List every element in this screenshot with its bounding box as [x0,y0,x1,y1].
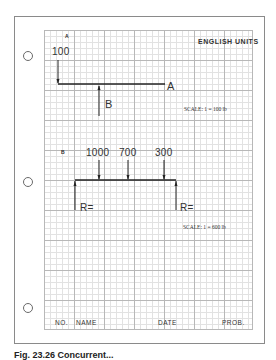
footer-prob-label: PROB. [222,320,245,327]
footer-date-label: DATE [158,320,177,327]
load-label-700: 700 [119,148,137,158]
arrow-head-icon [163,175,166,180]
scale-a-label: SCALE: 1 = 100 lb [184,107,227,113]
arrow-head-icon [98,85,101,90]
beam-end-label: A [167,81,174,92]
right-reaction-label: R= [180,203,194,213]
arrow-head-icon [57,79,60,84]
arrow-head-icon [127,175,130,180]
reaction-label: B [105,99,112,110]
applied-force-label: 100 [52,47,70,57]
load-label-1000: 1000 [86,148,109,158]
left-reaction-label: R= [80,203,94,213]
load-label-300: 300 [155,148,173,158]
units-label: ENGLISH UNITS [198,38,259,45]
footer-name-label: NAME [76,320,97,327]
scale-b-label: SCALE: 1 = 600 lb [183,225,226,231]
arrow-head-icon [175,181,178,186]
arrow-head-icon [98,175,101,180]
figure-caption: Fig. 23.26 Concurrent... [14,350,114,360]
problem-a-label: A [65,34,69,39]
footer-no-label: NO. [55,320,68,327]
arrow-head-icon [74,181,77,186]
problem-b-label: B [61,150,65,155]
